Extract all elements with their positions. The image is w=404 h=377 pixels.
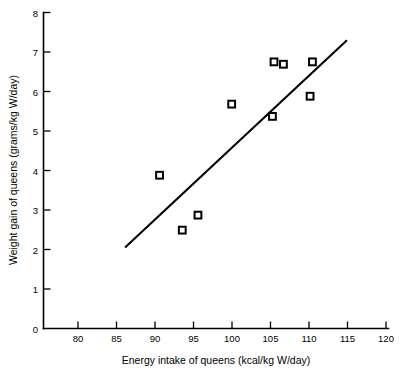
data-point-group (156, 58, 316, 233)
x-axis-tick-labels: 80 85 90 95 100 105 110 115 120 (73, 333, 394, 344)
x-tick-label-120: 120 (378, 333, 394, 344)
x-tick-label-100: 100 (224, 333, 240, 344)
data-point (228, 101, 235, 108)
x-axis-title: Energy intake of queens (kcal/kg W/day) (122, 354, 311, 366)
plot-canvas: 8 7 6 5 4 3 2 1 0 80 85 90 95 (0, 0, 404, 377)
y-axis-tick-labels: 8 7 6 5 4 3 2 1 0 (33, 8, 38, 335)
data-point (179, 227, 186, 234)
y-tick-label-8: 8 (33, 8, 38, 19)
data-point (309, 58, 316, 65)
y-tick-label-6: 6 (33, 87, 38, 98)
x-tick-label-105: 105 (263, 333, 279, 344)
y-tick-label-2: 2 (33, 245, 38, 256)
data-point (307, 93, 314, 100)
data-point (195, 212, 202, 219)
y-tick-label-4: 4 (33, 166, 38, 177)
data-point (156, 172, 163, 179)
y-tick-label-7: 7 (33, 47, 38, 58)
data-point (271, 58, 278, 65)
scatter-plot-figure: 8 7 6 5 4 3 2 1 0 80 85 90 95 (0, 0, 404, 377)
x-tick-label-85: 85 (111, 333, 122, 344)
y-tick-label-1: 1 (33, 284, 38, 295)
x-tick-label-90: 90 (150, 333, 161, 344)
y-axis-title: Weight gain of queens (grams/kg W/day) (7, 75, 19, 265)
y-axis-ticks (44, 13, 51, 290)
x-tick-label-95: 95 (188, 333, 199, 344)
y-tick-label-0: 0 (33, 324, 38, 335)
x-tick-label-115: 115 (340, 333, 355, 344)
x-axis-ticks (78, 322, 386, 329)
regression-line (125, 40, 347, 247)
x-tick-label-80: 80 (73, 333, 84, 344)
trend-line-group (125, 40, 347, 247)
y-tick-label-5: 5 (33, 126, 38, 137)
data-point (269, 113, 276, 120)
y-tick-label-3: 3 (33, 205, 38, 216)
x-tick-label-110: 110 (301, 333, 316, 344)
data-point (280, 61, 287, 68)
